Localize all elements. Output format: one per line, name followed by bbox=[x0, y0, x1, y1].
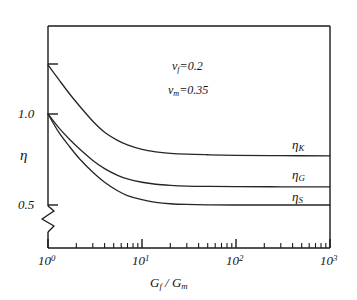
x-ticks-minor bbox=[76, 243, 325, 248]
x-tick-mantissa-1e2: 10 bbox=[226, 253, 239, 268]
curve-label-eta-g: ηG bbox=[292, 168, 305, 183]
x-tick-exponent-1e0: 0 bbox=[51, 253, 55, 263]
x-tick-label-1e0: 100 bbox=[38, 254, 55, 267]
y-axis-break-symbol bbox=[42, 206, 54, 232]
x-axis-title-gm-sub: m bbox=[181, 281, 187, 291]
y-axis-title: η bbox=[20, 148, 27, 163]
y-tick-label-0.5: 0.5 bbox=[18, 198, 34, 211]
annotation-nu-m: νm=0.35 bbox=[168, 84, 208, 98]
annotation-nu-m-value: 0.35 bbox=[187, 83, 208, 97]
curve-label-eta-s-subscript: S bbox=[298, 195, 302, 205]
curve-label-eta-k: ηK bbox=[292, 138, 304, 153]
y-ticks bbox=[48, 64, 58, 205]
x-axis-title-gm: G bbox=[172, 275, 181, 290]
curve-label-eta-k-subscript: K bbox=[298, 143, 304, 153]
curve-eta-g bbox=[48, 114, 330, 187]
x-tick-label-1e3: 103 bbox=[320, 254, 337, 267]
x-axis-title: Gf / Gm bbox=[150, 276, 188, 291]
annotation-nu-f-relation: = bbox=[180, 59, 188, 73]
x-tick-exponent-1e3: 3 bbox=[333, 253, 337, 263]
curve-eta-k bbox=[48, 65, 330, 156]
x-tick-mantissa-1e1: 10 bbox=[132, 253, 145, 268]
x-ticks-major bbox=[48, 239, 330, 248]
x-axis-title-gf: G bbox=[150, 275, 159, 290]
annotation-nu-f-value: 0.2 bbox=[188, 59, 203, 73]
y-tick-label-1.0: 1.0 bbox=[18, 107, 34, 120]
x-axis-title-slash: / bbox=[162, 275, 172, 290]
chart-figure: 1.0 0.5 η 100 101 102 103 Gf / Gm νf=0.2… bbox=[0, 0, 357, 300]
curve-label-eta-s: ηS bbox=[292, 190, 303, 205]
x-tick-label-1e2: 102 bbox=[226, 254, 243, 267]
x-tick-exponent-1e1: 1 bbox=[145, 253, 149, 263]
curve-eta-s bbox=[48, 114, 330, 205]
x-tick-mantissa-1e3: 10 bbox=[320, 253, 333, 268]
x-tick-exponent-1e2: 2 bbox=[239, 253, 243, 263]
annotation-nu-f: νf=0.2 bbox=[172, 60, 203, 74]
curve-label-eta-g-subscript: G bbox=[298, 173, 304, 183]
x-tick-label-1e1: 101 bbox=[132, 254, 149, 267]
x-tick-mantissa-1e0: 10 bbox=[38, 253, 51, 268]
